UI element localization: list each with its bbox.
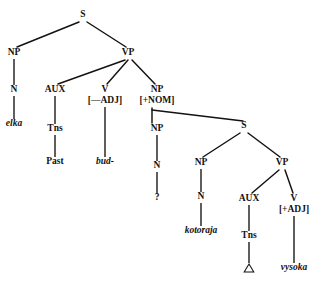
node-matrix-n: N (11, 84, 18, 94)
leaf-bud: bud- (96, 156, 114, 166)
leaf-vysoka: vysoka (281, 262, 308, 272)
leaf-kotoraja: kotoraja (185, 225, 218, 235)
node-embedded-s: S (241, 120, 246, 130)
branch-vp-to-v (107, 60, 128, 84)
node-matrix-v: V (102, 84, 109, 94)
node-rel-v: V (291, 193, 298, 203)
node-head-np: NP (151, 123, 164, 133)
node-rel-tns: Tns (241, 230, 257, 240)
leaf-past: Past (46, 156, 64, 166)
node-rel-vp: VP (276, 157, 289, 167)
node-object-np: NP (151, 84, 164, 94)
leaf-question-mark: ? (155, 192, 160, 202)
branch-s-embedded-to-vp (248, 133, 280, 157)
node-matrix-tns: Tns (47, 123, 63, 133)
node-root-s: S (80, 9, 85, 19)
node-rel-np: NP (195, 157, 208, 167)
branch-s-to-np (17, 22, 79, 47)
node-rel-v-feature: [+ADJ] (279, 204, 309, 214)
branch-np-nom-to-s-embedded (152, 110, 243, 121)
branch-rel-vp-to-v (285, 170, 293, 193)
node-matrix-np: NP (8, 47, 21, 57)
node-matrix-vp: VP (122, 47, 135, 57)
branch-rel-vp-to-aux (252, 170, 279, 193)
branch-s-embedded-to-np (203, 133, 240, 157)
branch-s-to-vp (87, 22, 126, 47)
leaf-elka: elka (6, 118, 23, 128)
syntax-tree-diagram: S NP VP N AUX V [—ADJ] NP [+NOM] NP S Tn… (0, 0, 324, 282)
branch-vp-to-aux (58, 60, 125, 84)
node-rel-n: N (198, 191, 205, 201)
branch-vp-to-np-object (132, 60, 155, 84)
node-head-n: N (154, 160, 161, 170)
node-rel-aux: AUX (239, 193, 260, 203)
node-matrix-aux: AUX (45, 84, 66, 94)
node-matrix-v-feature: [—ADJ] (88, 95, 122, 105)
node-object-np-feature: [+NOM] (140, 95, 175, 105)
